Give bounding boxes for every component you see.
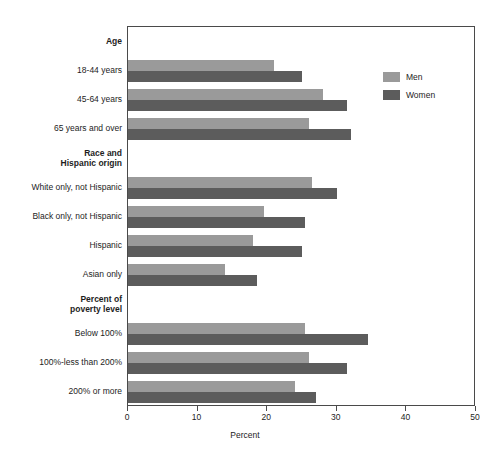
legend-item-men: Men: [383, 70, 435, 84]
x-axis-tick: [405, 406, 406, 411]
legend-swatch-women-icon: [383, 90, 400, 100]
bar-women: [128, 71, 302, 82]
legend: Men Women: [383, 70, 435, 106]
legend-label-men: Men: [406, 72, 423, 82]
bar-women: [128, 217, 305, 228]
bar-men: [128, 235, 253, 246]
bar-men: [128, 118, 309, 129]
bar-men: [128, 206, 264, 217]
group-heading-label: Race and Hispanic origin: [0, 148, 122, 168]
group-heading-label: Age: [0, 36, 122, 46]
category-label: Asian only: [0, 269, 122, 279]
bar-women: [128, 246, 302, 257]
bar-women: [128, 334, 368, 345]
bar-men: [128, 177, 312, 188]
bar-men: [128, 264, 225, 275]
bar-women: [128, 188, 337, 199]
x-axis-tick: [266, 406, 267, 411]
bar-women: [128, 363, 347, 374]
group-heading-label: Percent of poverty level: [0, 294, 122, 314]
category-label: 65 years and over: [0, 123, 122, 133]
x-axis-tick-label: 30: [316, 412, 356, 422]
bar-women: [128, 129, 351, 140]
category-label: 100%-less than 200%: [0, 357, 122, 367]
x-axis-tick-label: 10: [177, 412, 217, 422]
bar-women: [128, 275, 257, 286]
legend-item-women: Women: [383, 88, 435, 102]
x-axis-tick: [336, 406, 337, 411]
category-label: 200% or more: [0, 386, 122, 396]
category-label: Hispanic: [0, 240, 122, 250]
x-axis-tick-label: 50: [455, 412, 490, 422]
x-axis-tick: [475, 406, 476, 411]
x-axis-tick-label: 20: [246, 412, 286, 422]
category-label: 18-44 years: [0, 65, 122, 75]
bar-men: [128, 323, 305, 334]
category-label: Below 100%: [0, 328, 122, 338]
x-axis-tick: [197, 406, 198, 411]
bar-women: [128, 100, 347, 111]
bar-men: [128, 89, 323, 100]
x-axis-tick-label: 40: [385, 412, 425, 422]
category-label: Black only, not Hispanic: [0, 211, 122, 221]
x-axis-title: Percent: [0, 430, 490, 440]
legend-label-women: Women: [406, 90, 435, 100]
bar-men: [128, 352, 309, 363]
bar-chart: Age18-44 years45-64 years65 years and ov…: [0, 0, 490, 455]
bar-women: [128, 392, 316, 403]
category-label: 45-64 years: [0, 94, 122, 104]
category-label: White only, not Hispanic: [0, 182, 122, 192]
x-axis-tick-label: 0: [107, 412, 147, 422]
bar-men: [128, 60, 274, 71]
x-axis-tick: [127, 406, 128, 411]
legend-swatch-men-icon: [383, 72, 400, 82]
bar-men: [128, 381, 295, 392]
